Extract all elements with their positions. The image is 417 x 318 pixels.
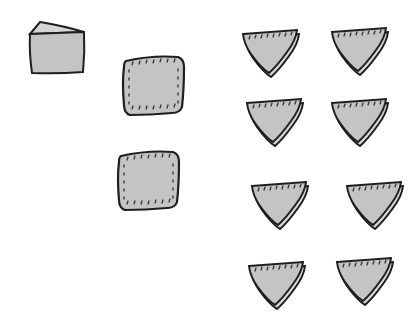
triangle-sandwich-3 — [247, 99, 303, 146]
cheese-block — [30, 22, 85, 73]
triangle-sandwich-1 — [243, 30, 299, 77]
triangle-sandwich-4 — [332, 99, 388, 146]
triangle-sandwich-8 — [337, 258, 393, 305]
square-sandwich-2 — [118, 152, 179, 211]
triangle-sandwich-2 — [332, 28, 388, 75]
triangle-sandwich-6 — [347, 182, 403, 229]
triangle-sandwich-7 — [249, 262, 305, 309]
square-sandwich-1 — [123, 57, 184, 116]
triangle-sandwich-5 — [252, 182, 308, 229]
illustration-canvas — [0, 0, 417, 318]
